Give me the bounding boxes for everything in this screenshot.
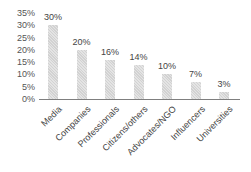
- y-tick-label: 35%: [0, 8, 35, 18]
- y-tick-label: 30%: [0, 20, 35, 30]
- data-label: 30%: [38, 12, 68, 22]
- data-label: 7%: [181, 69, 211, 79]
- y-tick-label: 5%: [0, 82, 35, 92]
- bar: [134, 65, 144, 99]
- bar: [77, 50, 87, 99]
- bar-chart: 0%5%10%15%20%25%30%35%30%Media20%Compani…: [0, 0, 251, 172]
- data-label: 14%: [124, 52, 154, 62]
- data-label: 10%: [152, 61, 182, 71]
- data-label: 20%: [67, 37, 97, 47]
- data-label: 16%: [95, 47, 125, 57]
- y-tick-label: 0%: [0, 94, 35, 104]
- bar: [219, 92, 229, 99]
- x-axis-line: [39, 99, 240, 100]
- y-tick-label: 20%: [0, 45, 35, 55]
- bar: [162, 74, 172, 99]
- y-tick-label: 25%: [0, 33, 35, 43]
- y-tick-label: 10%: [0, 69, 35, 79]
- x-tick-label: Media: [39, 104, 63, 128]
- bar: [48, 25, 58, 99]
- bar: [105, 60, 115, 99]
- bar: [191, 82, 201, 99]
- y-tick-label: 15%: [0, 57, 35, 67]
- data-label: 3%: [209, 79, 239, 89]
